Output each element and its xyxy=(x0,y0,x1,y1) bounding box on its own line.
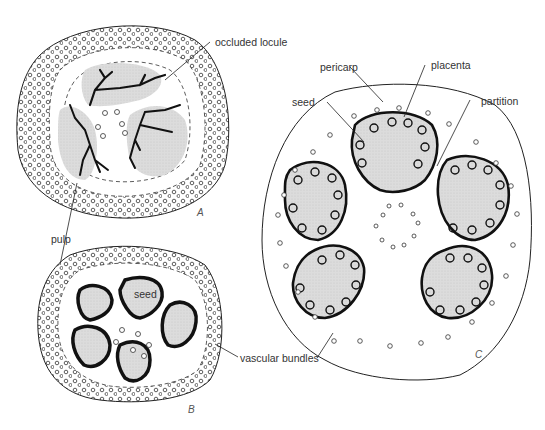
panel-b xyxy=(38,246,238,402)
label-seed-b: seed xyxy=(134,288,157,300)
label-pericarp: pericarp xyxy=(320,61,358,73)
panel-letter-c: C xyxy=(475,349,482,360)
panel-a xyxy=(17,26,229,265)
label-occluded-locule: occluded locule xyxy=(215,36,287,48)
label-vascular-bundles: vascular bundles xyxy=(240,352,319,364)
panel-letter-a: A xyxy=(197,207,204,218)
panel-letter-b: B xyxy=(188,404,195,415)
label-placenta: placenta xyxy=(431,59,471,71)
label-partition: partition xyxy=(481,95,518,107)
label-seed-c: seed xyxy=(292,96,315,108)
panel-c xyxy=(262,65,531,380)
label-pulp: pulp xyxy=(51,233,71,245)
